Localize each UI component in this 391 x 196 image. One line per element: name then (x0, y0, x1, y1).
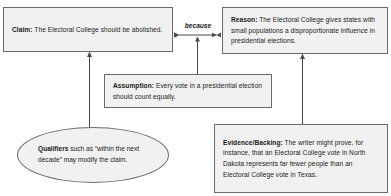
node-evidence-backing[interactable]: Evidence/Backing: The writer might prove… (214, 124, 388, 193)
node-claim[interactable]: Claim: The Electoral College should be a… (3, 7, 173, 52)
node-reason-label: Reason: (231, 16, 257, 23)
node-reason[interactable]: Reason: The Electoral College gives stat… (222, 7, 388, 54)
node-assumption-label: Assumption: (113, 82, 154, 89)
node-claim-text: Claim: The Electoral College should be a… (12, 25, 162, 36)
node-claim-body: The Electoral College should be abolishe… (33, 26, 163, 33)
connector-evidence-to-reason (300, 54, 305, 125)
argument-diagram: because Claim: The Electoral College sho… (0, 0, 391, 196)
connector-assumption-to-link (195, 37, 200, 75)
connector-label-because: because (174, 22, 222, 29)
node-qualifiers-label: Qualifiers (38, 145, 68, 152)
connector-claim-reason (175, 33, 222, 38)
node-assumption-text: Assumption: Every vote in a presidential… (113, 81, 263, 102)
node-qualifiers-text: Qualifiers such as “within the next deca… (38, 144, 148, 165)
node-qualifiers[interactable]: Qualifiers such as “within the next deca… (17, 127, 169, 183)
node-reason-text: Reason: The Electoral College gives stat… (231, 15, 379, 47)
node-evidence-label: Evidence/Backing: (223, 139, 283, 146)
node-evidence-text: Evidence/Backing: The writer might prove… (223, 138, 379, 181)
node-assumption[interactable]: Assumption: Every vote in a presidential… (104, 74, 272, 108)
connector-qualifiers-to-claim (87, 52, 92, 133)
node-claim-label: Claim: (12, 26, 33, 33)
